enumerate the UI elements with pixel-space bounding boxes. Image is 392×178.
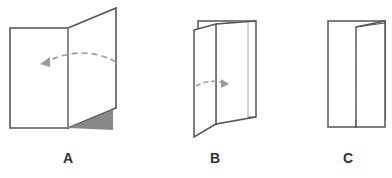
step-label-b: B: [205, 150, 225, 166]
figure-a: [10, 8, 116, 130]
figure-c: [328, 21, 385, 127]
step-label-c: C: [338, 150, 358, 166]
figure-b: [194, 21, 256, 137]
step-label-a: A: [58, 150, 78, 166]
